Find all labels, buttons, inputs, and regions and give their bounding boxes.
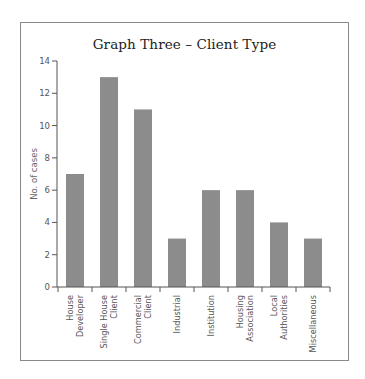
y-tick-label: 14 [39,56,50,66]
x-category-label: Industrial [172,295,182,333]
y-tick-label: 12 [39,88,50,98]
bar [66,174,84,287]
x-category-label: Commercial [133,295,143,344]
bar [100,77,118,287]
x-category-label: Local [269,295,279,316]
x-category-label: Single House [99,295,109,348]
x-axis: HouseDeveloperSingle HouseClientCommerci… [57,287,330,352]
x-category-label: Association [245,295,255,342]
y-tick-label: 6 [45,185,50,195]
y-axis-label: No. of cases [29,148,39,200]
bar-chart: 02468101214 HouseDeveloperSingle HouseCl… [0,0,365,379]
x-category-label: Developer [75,294,85,337]
x-category-label: Miscellaneous [308,295,318,352]
x-category-label: Client [109,294,119,318]
bar [134,109,152,287]
x-category-label: Authorities [279,295,289,340]
x-category-label: House [65,295,75,321]
y-tick-label: 2 [45,250,50,260]
y-tick-label: 10 [39,121,50,131]
bar [168,239,186,287]
y-tick-label: 4 [45,217,50,227]
y-tick-label: 0 [45,282,50,292]
bar [304,239,322,287]
bar [202,190,220,287]
x-category-label: Client [143,294,153,318]
x-category-label: Housing [235,295,245,328]
y-axis: 02468101214 [39,56,57,292]
bar [236,190,254,287]
x-category-label: Institution [206,295,216,336]
y-tick-label: 8 [45,153,50,163]
bar [270,222,288,287]
bars [66,77,322,287]
